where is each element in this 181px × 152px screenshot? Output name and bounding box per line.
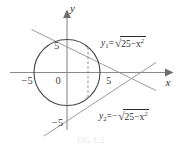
y-axis-label: y [69, 2, 75, 14]
x-axis-label: x [165, 76, 171, 88]
equation-lower-exponent: 2 [144, 110, 147, 117]
equation-upper-radicand: 25−x2 [120, 36, 146, 49]
x-tick-label-neg5: −5 [22, 75, 33, 86]
coordinate-plot: −5 5 5 −5 0 x y [0, 0, 181, 152]
equation-label-lower: y2=−√25−x2 [99, 109, 149, 123]
equation-lower-radicand-base: 25−x [125, 111, 145, 121]
equation-label-upper: y1=√25−x2 [101, 36, 146, 50]
equation-lower-radical: √25−x2 [117, 109, 149, 123]
equation-upper-radical: √25−x2 [114, 36, 146, 50]
equation-lower-radicand: 25−x2 [123, 109, 149, 122]
origin-label: 0 [56, 75, 61, 86]
x-tick-label-5: 5 [106, 75, 111, 86]
equation-upper-radicand-base: 25−x [121, 38, 141, 48]
figure-caption: FIG 1.2 [0, 136, 181, 145]
equation-upper-exponent: 2 [141, 37, 144, 44]
y-tick-label-neg5: −5 [52, 117, 63, 128]
figure-container: −5 5 5 −5 0 x y y1=√25−x2 y2=−√25−x2 FIG… [0, 0, 181, 152]
y-tick-label-5: 5 [54, 40, 59, 51]
